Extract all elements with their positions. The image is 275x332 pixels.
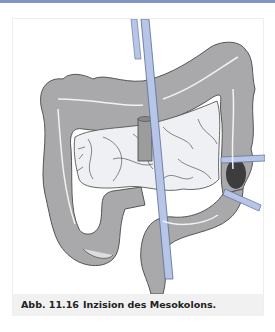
figure-label: Abb. 11.16 <box>21 299 79 310</box>
top-accent-bar <box>0 0 275 3</box>
vessel-stump <box>138 119 152 161</box>
caption-band: Abb. 11.16Inzision des Mesokolons. <box>13 294 263 316</box>
sigmoid-rectum <box>141 189 243 294</box>
figure-caption: Abb. 11.16Inzision des Mesokolons. <box>21 299 216 310</box>
caption-text: Inzision des Mesokolons. <box>83 299 216 310</box>
tumor <box>226 159 246 189</box>
figure: Abb. 11.16Inzision des Mesokolons. <box>12 18 264 316</box>
colon-illustration <box>13 19 265 294</box>
